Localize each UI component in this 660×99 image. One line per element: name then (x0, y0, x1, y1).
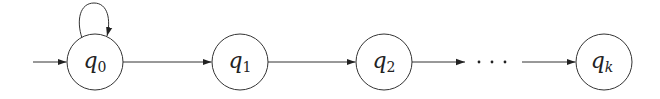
ellipsis (478, 61, 507, 64)
state-qk: qk (576, 34, 632, 90)
state-q2: q2 (356, 34, 412, 90)
automaton-diagram: q0 q1 q2 qk (0, 0, 660, 99)
state-q1: q1 (212, 34, 268, 90)
self-loop-q0 (79, 3, 108, 38)
state-q0: q0 (67, 34, 123, 90)
